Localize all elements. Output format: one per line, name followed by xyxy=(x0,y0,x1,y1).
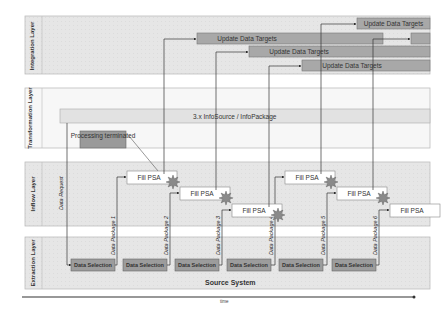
layer-label-transformation: Transformation Layer xyxy=(27,87,33,149)
error-burst-icon xyxy=(324,175,338,189)
fill-psa-label: Fill PSA xyxy=(400,207,424,214)
data-package-label: Data Package 5 xyxy=(320,215,326,255)
fill-psa-label: Fill PSA xyxy=(295,174,319,181)
process-diagram: Integration Layer Transformation Layer I… xyxy=(0,0,443,312)
fill-psa-label: Fill PSA xyxy=(242,207,266,214)
data-selection-label: Data Selection xyxy=(126,262,165,268)
infosource-label: 3.x InfoSource / InfoPackage xyxy=(193,113,277,121)
error-burst-icon xyxy=(219,191,233,205)
data-selection-label: Data Selection xyxy=(74,262,113,268)
fill-psa-label: Fill PSA xyxy=(190,190,214,197)
error-burst-icon xyxy=(166,175,180,189)
data-selection-box: Data Selection xyxy=(227,259,271,271)
data-selection-box: Data Selection xyxy=(175,259,219,271)
data-selection-label: Data Selection xyxy=(230,262,269,268)
layer-label-inflow: Inflow Layer xyxy=(30,176,36,212)
time-axis-label: time xyxy=(220,299,229,304)
data-selection-label: Data Selection xyxy=(178,262,217,268)
error-burst-icon xyxy=(376,191,390,205)
data-selection-label: Data Selection xyxy=(282,262,321,268)
data-request-label: Data Request xyxy=(58,176,64,210)
processing-terminated-text: Processing terminated xyxy=(71,132,136,140)
data-selection-box: Data Selection xyxy=(123,259,167,271)
update-data-targets-label: Update Data Targets xyxy=(364,20,424,28)
layer-label-integration: Integration Layer xyxy=(29,21,35,70)
data-package-label: Data Package 1 xyxy=(110,216,116,255)
data-selection-box: Data Selection xyxy=(71,259,115,271)
source-system-label: Source System xyxy=(205,279,256,287)
fill-psa-label: Fill PSA xyxy=(137,174,161,181)
data-package-label: Data Package 6 xyxy=(372,215,378,255)
data-selection-box: Data Selection xyxy=(332,259,376,271)
data-package-label: Data Package 3 xyxy=(215,215,221,255)
error-burst-icon xyxy=(271,208,285,222)
data-package-label: Data Package 4 xyxy=(268,216,274,255)
layer-label-transformation-text: Transformation Layer xyxy=(27,87,33,149)
infosource-bar: 3.x InfoSource / InfoPackage xyxy=(60,109,430,123)
fill-psa-label: Fill PSA xyxy=(347,190,371,197)
time-axis: time xyxy=(22,296,416,305)
layer-label-extraction: Extraction Layer xyxy=(30,239,36,287)
data-selection-box: Data Selection xyxy=(279,259,323,271)
update-data-targets-label: Update Data Targets xyxy=(322,62,382,70)
processing-terminated-label: Processing terminated xyxy=(71,132,136,140)
update-data-targets-label: Update Data Targets xyxy=(217,35,277,43)
data-selection-label: Data Selection xyxy=(335,262,374,268)
update-data-targets-label: Update Data Targets xyxy=(269,48,329,56)
data-package-label: Data Package 2 xyxy=(163,216,169,255)
fill-psa-box: Fill PSA xyxy=(390,204,440,217)
